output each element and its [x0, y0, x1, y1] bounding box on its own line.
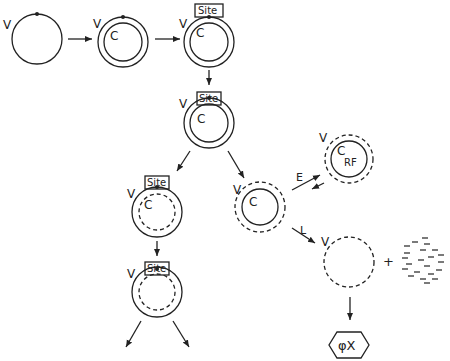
label-l: L	[300, 224, 307, 237]
label-c: C	[196, 26, 204, 40]
arrow	[173, 321, 189, 347]
arrow	[312, 183, 324, 189]
node-rf-initial: V C	[93, 15, 148, 67]
label-v: V	[3, 18, 12, 32]
label-c: C	[249, 195, 257, 209]
plus-sign: +	[383, 254, 394, 269]
label-v: V	[179, 97, 188, 111]
label-v: V	[321, 235, 330, 249]
node-dashed-v-only: V	[321, 235, 374, 287]
node-ss-viral: V	[3, 12, 62, 64]
label-v: V	[127, 187, 136, 201]
site-dot-icon	[121, 15, 125, 19]
arrow	[177, 151, 190, 171]
node-rf-site-dashedC: Site V C	[127, 176, 182, 237]
label-v: V	[127, 267, 136, 281]
label-v: V	[179, 17, 188, 31]
label-v: V	[93, 17, 102, 31]
node-rf-replicative: V C RF	[319, 131, 373, 183]
arrow	[126, 321, 141, 347]
site-dot-icon	[35, 12, 39, 16]
label-c: C	[144, 198, 152, 212]
label-c: C	[337, 144, 345, 158]
label-rf: RF	[344, 157, 357, 168]
label-e: E	[296, 171, 303, 184]
node-rf-site-1: Site V C	[179, 4, 234, 67]
label-c: C	[197, 112, 205, 126]
label-site: Site	[198, 5, 217, 16]
label-phage: φX	[338, 338, 356, 353]
node-fragments	[402, 238, 444, 283]
arrow	[228, 151, 244, 178]
label-c: C	[110, 29, 118, 43]
node-rf-site-2: Site V C	[179, 92, 234, 148]
replication-diagram: V V C Site V C Site V C Site V	[0, 0, 450, 361]
node-phage: φX	[329, 332, 369, 358]
node-dashedV-solidC: V C	[233, 182, 285, 232]
node-rf-site-dashedC-2: Site V	[127, 262, 182, 317]
label-v: V	[233, 183, 242, 197]
label-v: V	[319, 131, 328, 145]
